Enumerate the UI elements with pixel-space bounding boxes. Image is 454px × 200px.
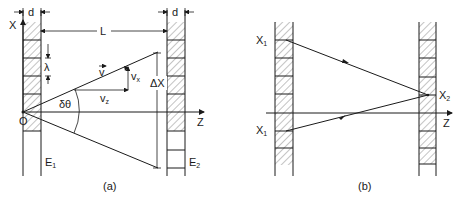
panel-a: d d L X Z O xyxy=(9,6,204,192)
label-vx: vx xyxy=(131,70,141,83)
left-plate-e1 xyxy=(23,10,41,176)
label-e2: E2 xyxy=(189,156,200,169)
label-vz: vz xyxy=(100,92,110,105)
caption-a: (a) xyxy=(103,180,116,192)
right-plate-e2 xyxy=(167,10,185,176)
delta-theta-arc: δθ xyxy=(59,89,79,133)
label-d-left: d xyxy=(28,6,34,18)
rays xyxy=(22,52,159,168)
label-x1-bottom: X1 xyxy=(256,124,267,137)
label-lambda: λ xyxy=(44,61,50,73)
right-plate-b xyxy=(419,22,436,176)
label-L: L xyxy=(100,25,106,37)
delta-x-dimension: ΔX xyxy=(149,53,167,168)
label-z-axis: Z xyxy=(197,116,204,128)
velocity-triangle: v vx vz xyxy=(74,66,141,105)
panel-b: Z X1 X1 X2 (b) xyxy=(256,22,452,192)
lambda-marker: λ xyxy=(44,44,51,84)
rays-b xyxy=(286,40,429,131)
label-x1-top: X1 xyxy=(256,34,267,47)
left-plate-b xyxy=(275,22,293,176)
label-x2: X2 xyxy=(439,89,450,102)
dimension-d-right: d xyxy=(158,6,194,18)
label-d-right: d xyxy=(172,6,178,18)
label-x-axis: X xyxy=(9,19,17,31)
label-origin: O xyxy=(19,115,28,127)
label-delta-x: ΔX xyxy=(150,77,165,89)
label-delta-theta: δθ xyxy=(59,98,71,110)
dimension-d-left: d xyxy=(14,6,50,18)
x-axis: X xyxy=(9,19,23,112)
label-e1: E1 xyxy=(45,156,56,169)
figure-canvas: d d L X Z O xyxy=(0,0,454,200)
dimension-L: L xyxy=(41,25,167,37)
label-v: v xyxy=(99,66,105,78)
caption-b: (b) xyxy=(358,180,371,192)
label-z-axis-b: Z xyxy=(443,117,450,129)
